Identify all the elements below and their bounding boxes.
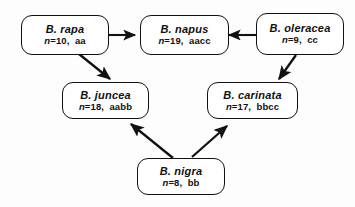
species-name-napus: B. napus [160, 23, 208, 35]
genotype-oleracea: n=9, cc [282, 35, 318, 46]
genome-code-carinata: bbcc [256, 101, 279, 112]
genome-code-oleracea: cc [307, 34, 318, 45]
species-name-rapa: B. rapa [46, 23, 85, 35]
chromosome-count-carinata: =17, [232, 101, 251, 112]
node-b-napus[interactable]: B. napus n=19, aacc [140, 15, 229, 55]
edge-rapa-to-juncea [79, 54, 110, 79]
genotype-rapa: n=10, aa [44, 36, 85, 47]
genotype-carinata: n=17, bbcc [226, 102, 279, 113]
genome-code-napus: aacc [189, 35, 211, 46]
genotype-napus: n=19, aacc [158, 36, 210, 47]
genome-code-juncea: aabb [109, 101, 132, 112]
genome-code-nigra: bb [188, 177, 200, 188]
species-name-oleracea: B. oleracea [270, 22, 331, 34]
chromosome-count-oleracea: =9, [288, 34, 302, 45]
genome-code-rapa: aa [75, 35, 86, 46]
genotype-juncea: n=18, aabb [79, 102, 132, 113]
edge-nigra-to-carinata [192, 126, 227, 157]
chromosome-count-juncea: =18, [85, 101, 104, 112]
node-b-oleracea[interactable]: B. oleracea n=9, cc [256, 13, 344, 55]
node-b-carinata[interactable]: B. carinata n=17, bbcc [207, 82, 298, 119]
node-b-rapa[interactable]: B. rapa n=10, aa [21, 15, 109, 55]
species-name-juncea: B. juncea [80, 89, 131, 101]
species-name-carinata: B. carinata [223, 89, 281, 101]
chromosome-count-nigra: =8, [168, 177, 182, 188]
genotype-nigra: n=8, bb [163, 178, 200, 189]
species-name-nigra: B. nigra [160, 165, 203, 177]
chromosome-count-napus: =19, [164, 35, 183, 46]
edge-oleracea-to-carinata [279, 55, 296, 79]
node-b-nigra[interactable]: B. nigra n=8, bb [137, 158, 225, 195]
edge-nigra-to-juncea [131, 124, 173, 158]
chromosome-count-rapa: =10, [50, 35, 69, 46]
node-b-juncea[interactable]: B. juncea n=18, aabb [62, 82, 149, 119]
brassica-triangle-diagram: B. rapa n=10, aa B. napus n=19, aacc B. … [0, 0, 355, 207]
